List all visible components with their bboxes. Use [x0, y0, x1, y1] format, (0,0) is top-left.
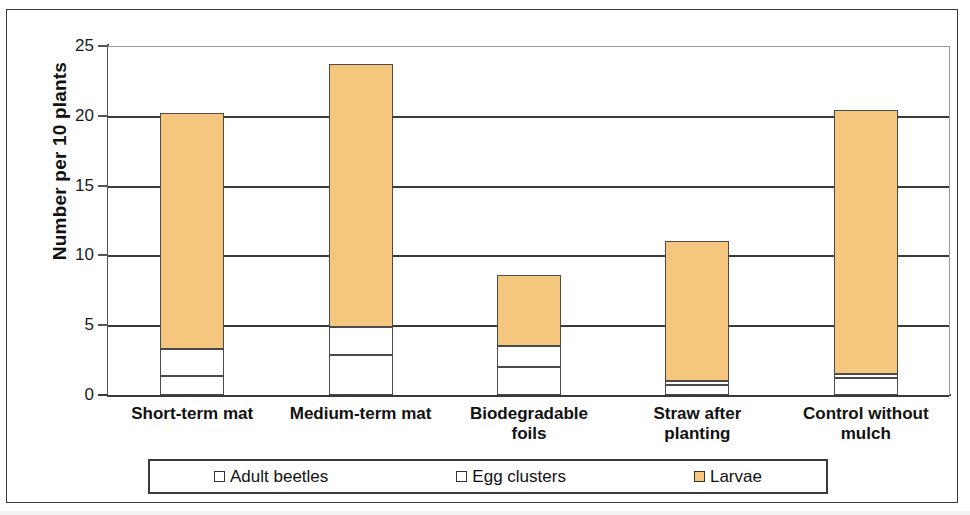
chart-figure: Number per 10 plants 2520151050 Short-te… [0, 0, 970, 515]
bar-segment-adult-beetles [665, 385, 729, 395]
y-tick-label: 20 [54, 107, 94, 124]
x-category-label: Short-term mat [108, 404, 276, 424]
legend-swatch-icon [214, 471, 225, 482]
bar-stack [497, 46, 561, 395]
x-category-label-line2: planting [613, 424, 781, 444]
legend-label: Egg clusters [472, 467, 566, 487]
y-tick-mark [98, 324, 107, 326]
legend-label: Larvae [710, 467, 762, 487]
bar-segment-adult-beetles [160, 376, 224, 395]
y-tick-label: 25 [54, 37, 94, 54]
legend-label: Adult beetles [230, 467, 328, 487]
y-tick-mark [98, 254, 107, 256]
bar-segment-egg-clusters [665, 381, 729, 385]
bar-segment-egg-clusters [497, 346, 561, 367]
bar-segment-larvae [665, 241, 729, 381]
bar-group [497, 46, 561, 395]
x-category-label: Medium-term mat [276, 404, 444, 424]
x-category-label-line1: Medium-term mat [276, 404, 444, 424]
x-category-label-line1: Straw after [613, 404, 781, 424]
x-category-label-line1: Control without [782, 404, 950, 424]
gridline [108, 395, 949, 397]
x-category-label: Control withoutmulch [782, 404, 950, 443]
y-tick-label: 15 [54, 177, 94, 194]
bar-segment-larvae [497, 275, 561, 346]
x-category-label-line2: mulch [782, 424, 950, 444]
bar-segment-adult-beetles [834, 378, 898, 395]
x-category-label-line1: Short-term mat [108, 404, 276, 424]
bar-group [665, 46, 729, 395]
bar-group [160, 46, 224, 395]
y-tick-mark [98, 115, 107, 117]
chart-legend: Adult beetlesEgg clustersLarvae [148, 459, 828, 494]
legend-swatch-icon [456, 471, 467, 482]
bar-segment-adult-beetles [329, 355, 393, 395]
legend-item[interactable]: Larvae [694, 467, 762, 487]
bar-segment-larvae [329, 64, 393, 326]
bar-segment-egg-clusters [160, 349, 224, 376]
x-category-label-line2: foils [445, 424, 613, 444]
bar-stack [834, 46, 898, 395]
y-tick-label: 10 [54, 246, 94, 263]
scan-edge [0, 511, 970, 515]
x-category-label-line1: Biodegradable [445, 404, 613, 424]
legend-item[interactable]: Adult beetles [214, 467, 328, 487]
legend-swatch-icon [694, 471, 705, 482]
y-tick-mark [98, 185, 107, 187]
bar-segment-egg-clusters [834, 374, 898, 378]
bar-group [834, 46, 898, 395]
y-tick-mark [98, 45, 107, 47]
x-category-label: Straw afterplanting [613, 404, 781, 443]
legend-item[interactable]: Egg clusters [456, 467, 566, 487]
bar-stack [665, 46, 729, 395]
bar-group [329, 46, 393, 395]
bar-segment-larvae [834, 110, 898, 374]
bar-stack [160, 46, 224, 395]
bar-segment-egg-clusters [329, 327, 393, 355]
x-category-label: Biodegradablefoils [445, 404, 613, 443]
bar-segment-larvae [160, 113, 224, 349]
plot-area [108, 46, 950, 395]
y-tick-label: 0 [54, 386, 94, 403]
bar-stack [329, 46, 393, 395]
bar-segment-adult-beetles [497, 367, 561, 395]
y-tick-label: 5 [54, 316, 94, 333]
